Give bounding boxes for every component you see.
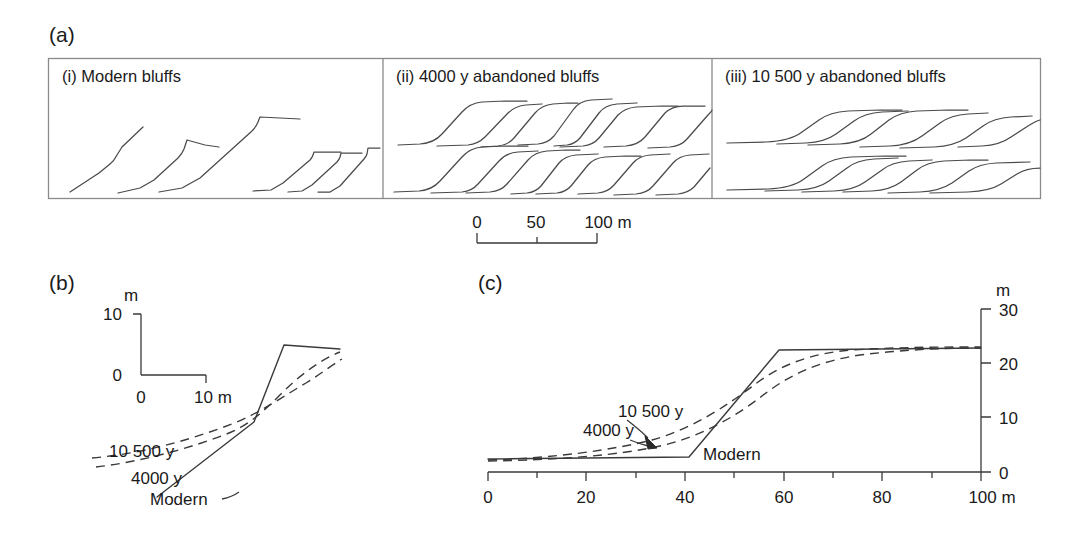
- subpanel-ii-profiles: [398, 99, 712, 148]
- panel-a-label: (a): [49, 23, 75, 46]
- panel-c-xtick-40: 40: [676, 488, 695, 507]
- subpanel-ii-profiles-bottom: [394, 146, 710, 195]
- panel-b-y-top-tick: 10: [103, 305, 122, 324]
- subpanel-iii-profiles: [727, 110, 1040, 148]
- panel-b-curve-labels: 10 500 y 4000 y Modern: [109, 442, 239, 509]
- panel-c-xtick-100: 100 m: [968, 488, 1015, 507]
- panel-c-modern-curve: [488, 348, 981, 459]
- figure-container: (a) (i) Modern bluffs (ii) 4000 y abando…: [0, 0, 1075, 537]
- scalebar-tick-0: 0: [472, 213, 481, 232]
- panel-c-xtick-80: 80: [873, 488, 892, 507]
- panel-c-label-modern: Modern: [703, 445, 761, 464]
- subpanel-i-profiles: [70, 117, 380, 193]
- subpanel-i-title: (i) Modern bluffs: [62, 67, 181, 85]
- panel-b-curves: [92, 345, 342, 497]
- panel-a-scalebar: 0 50 100 m: [472, 213, 631, 243]
- panel-c-y-axis: m 30 20 10 0: [981, 281, 1018, 483]
- panel-c-xtick-20: 20: [577, 488, 596, 507]
- panel-c-x-axis: 0 20 40 60 80 100 m: [483, 472, 1015, 507]
- scalebar-tick-50: 50: [527, 213, 546, 232]
- panel-c-label-4000y: 4000 y: [583, 421, 635, 440]
- panel-c-xtick-0: 0: [483, 488, 492, 507]
- panel-c-ytick-10: 10: [999, 409, 1018, 428]
- panel-b-label-modern: Modern: [150, 490, 208, 509]
- panel-c-annotation-arrow: [645, 436, 657, 449]
- panel-c-label-10500y: 10 500 y: [618, 402, 684, 421]
- subpanel-iii-title: (iii) 10 500 y abandoned bluffs: [725, 67, 946, 85]
- panel-c-ytick-20: 20: [999, 355, 1018, 374]
- panel-c-ytick-30: 30: [999, 301, 1018, 320]
- panel-b-label-10500y: 10 500 y: [109, 442, 175, 461]
- panel-b-y-bottom-tick: 0: [113, 366, 122, 385]
- panel-c-y-unit: m: [996, 281, 1010, 300]
- panel-b-modern-leader: [222, 492, 239, 499]
- panel-c-ytick-0: 0: [999, 464, 1008, 483]
- panel-c-curves: [488, 347, 981, 461]
- subpanel-iii-profiles-bottom: [727, 156, 1040, 193]
- scalebar-tick-100: 100 m: [584, 213, 631, 232]
- panel-b-y-unit: m: [124, 286, 138, 305]
- panel-c-xtick-60: 60: [775, 488, 794, 507]
- panel-b-label-4000y: 4000 y: [131, 469, 183, 488]
- panel-b-scale-reference: m 10 0 0 10 m: [103, 286, 232, 407]
- panel-b-label: (b): [49, 271, 75, 294]
- panel-c-label: (c): [478, 271, 503, 294]
- panel-b-x-right-tick: 10 m: [194, 388, 232, 407]
- subpanel-ii-title: (ii) 4000 y abandoned bluffs: [396, 67, 599, 85]
- panel-b-x-left-tick: 0: [136, 388, 145, 407]
- figure-svg: (a) (i) Modern bluffs (ii) 4000 y abando…: [0, 0, 1075, 537]
